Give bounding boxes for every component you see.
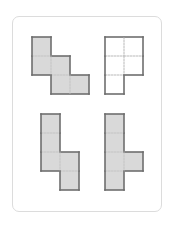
grid-cell bbox=[60, 152, 79, 171]
grid-cell bbox=[124, 37, 143, 56]
grid-cell bbox=[41, 114, 60, 133]
grid-cell bbox=[51, 75, 70, 94]
grid-cell bbox=[105, 75, 124, 94]
grid-cell bbox=[70, 75, 89, 94]
grid-cell bbox=[105, 56, 124, 75]
grid-cell bbox=[32, 37, 51, 56]
grid-cell bbox=[105, 37, 124, 56]
shape-bottom-right bbox=[105, 114, 143, 190]
shape-bottom-left bbox=[41, 114, 79, 190]
grid-cell bbox=[41, 152, 60, 171]
shape-top-right bbox=[105, 37, 143, 94]
grid-cell bbox=[105, 114, 124, 133]
shape-top-left bbox=[32, 37, 89, 94]
grid-cell bbox=[32, 56, 51, 75]
grid-cell bbox=[124, 152, 143, 171]
grid-cell bbox=[105, 133, 124, 152]
grid-cell bbox=[105, 171, 124, 190]
grid-cell bbox=[60, 171, 79, 190]
grid-cell bbox=[124, 56, 143, 75]
grid-cell bbox=[105, 152, 124, 171]
grid-cell bbox=[51, 56, 70, 75]
grid-cell bbox=[41, 133, 60, 152]
